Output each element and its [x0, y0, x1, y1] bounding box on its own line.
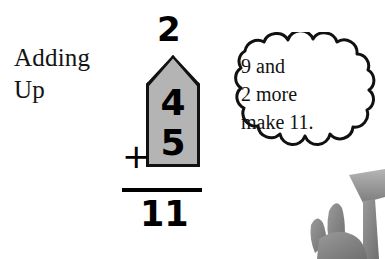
thought-bubble-text: 9 and 2 more make 11.	[241, 52, 363, 136]
addend-tens-digit: 4	[146, 85, 200, 121]
page-title-line-1: Adding	[14, 42, 134, 74]
thought-line-1: 9 and	[241, 52, 363, 80]
thought-line-2: 2 more	[241, 80, 363, 108]
addend-ones-digit: 5	[146, 125, 200, 161]
worksheet-page: Adding Up 2 4 5 + 11 9 and 2 more make 1…	[0, 0, 385, 259]
page-title-line-2: Up	[14, 74, 134, 106]
addition-problem: 2 4 5 + 11	[120, 8, 230, 240]
page-title: Adding Up	[14, 42, 134, 106]
sum-rule-line	[122, 188, 202, 192]
hand-photo-shape	[289, 167, 385, 259]
addends-highlight-shape: 4 5	[146, 55, 200, 167]
hand-photo-illustration	[289, 167, 385, 259]
thought-bubble: 9 and 2 more make 11.	[224, 32, 376, 169]
carried-digit: 2	[157, 12, 181, 46]
plus-operator: +	[122, 139, 151, 173]
thought-line-3: make 11.	[241, 108, 363, 136]
sum-total: 11	[140, 197, 189, 232]
